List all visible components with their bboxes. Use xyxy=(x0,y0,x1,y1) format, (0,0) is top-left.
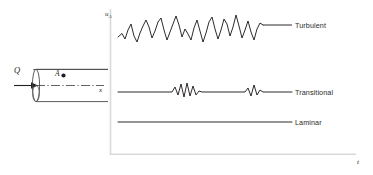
plot-axes xyxy=(111,9,357,155)
trace-transitional xyxy=(118,83,292,97)
trace-turbulent xyxy=(118,15,263,42)
y-axis-label-sub: A xyxy=(109,14,112,19)
flow-rate-label: Q xyxy=(14,66,20,75)
legend-label-laminar: Laminar xyxy=(295,119,322,126)
x-axis-label: t xyxy=(357,159,359,166)
point-a-label: A xyxy=(55,70,60,78)
point-a-marker xyxy=(61,73,65,77)
legend-label-transitional: Transitional xyxy=(295,89,333,96)
pipe-schematic xyxy=(14,69,108,101)
y-axis-label: uA xyxy=(105,3,112,19)
pipe-axis-label: x xyxy=(99,87,102,94)
legend-label-turbulent: Turbulent xyxy=(295,22,326,29)
flow-arrow-icon xyxy=(14,82,38,88)
